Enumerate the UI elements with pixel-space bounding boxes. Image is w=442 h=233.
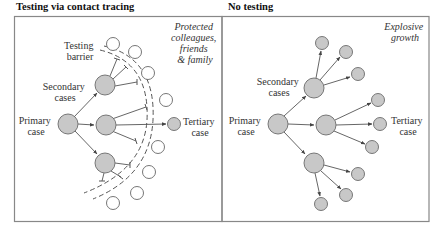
tertiary-case-node [316, 37, 329, 50]
contact-tracing-diagram: Testing barrier Secondary cases Primary … [0, 0, 442, 233]
primary-case-node [58, 114, 78, 134]
tertiary-case-node [366, 141, 379, 154]
label-testing-barrier: Testing barrier [64, 40, 96, 62]
primary-case-node [268, 114, 288, 134]
tertiary-case-node [352, 168, 365, 181]
tertiary-case-node [168, 118, 181, 131]
protected-contact-nodes [107, 38, 173, 210]
secondary-case-node [304, 78, 324, 98]
label-secondary-cases: Secondary cases [43, 81, 88, 103]
note-protected: Protected colleagues, friends & family [171, 21, 219, 65]
tertiary-case-node [352, 68, 365, 81]
secondary-case-node [304, 153, 324, 173]
label-tertiary-case: Tertiary case [183, 116, 217, 138]
label-primary-case: Primary case [19, 115, 54, 137]
secondary-case-node [95, 75, 115, 95]
secondary-case-node [96, 115, 116, 135]
tertiary-case-node [372, 94, 385, 107]
tertiary-case-node [374, 118, 387, 131]
secondary-case-node [95, 153, 115, 173]
secondary-case-node [316, 115, 336, 135]
label-secondary-cases-right: Secondary cases [257, 76, 302, 98]
right-infected-nodes [268, 37, 387, 211]
tertiary-case-node [340, 189, 353, 202]
tertiary-case-node [340, 46, 353, 59]
tertiary-case-node [315, 198, 328, 211]
note-explosive-growth: Explosive growth [383, 21, 425, 43]
label-primary-case-right: Primary case [229, 115, 264, 137]
label-tertiary-case-right: Tertiary case [391, 115, 425, 137]
